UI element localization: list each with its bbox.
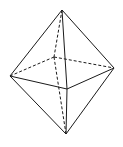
octahedron-diagram: [0, 0, 123, 147]
edge-top-right: [62, 10, 114, 68]
edge-bottom-right: [66, 68, 114, 134]
visible-edges: [10, 10, 114, 134]
edge-bottom-left: [10, 76, 66, 134]
edge-left-back-hidden: [10, 57, 54, 76]
octahedron-figure: [0, 0, 123, 147]
edge-bottom-front: [66, 89, 67, 134]
edge-top-left: [10, 10, 62, 76]
edge-top-back-hidden: [54, 10, 62, 57]
edge-top-front: [62, 10, 67, 89]
hidden-edges: [10, 10, 114, 134]
edge-bottom-back-hidden: [54, 57, 66, 134]
